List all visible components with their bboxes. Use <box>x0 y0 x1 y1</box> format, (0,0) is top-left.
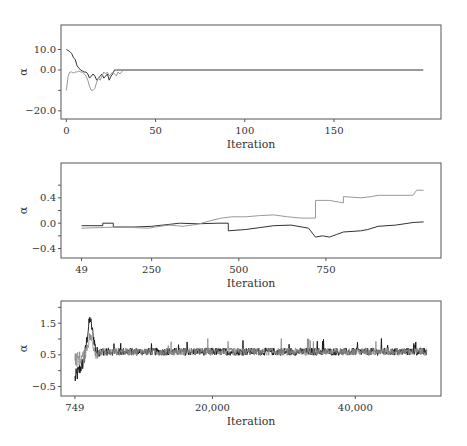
y-tick-label: −20.0 <box>25 105 56 116</box>
x-axis-label: Iteration <box>227 277 276 290</box>
trace-line-2 <box>75 334 427 367</box>
x-tick-label: 40,000 <box>338 402 373 413</box>
x-tick-label: 750 <box>316 264 335 275</box>
x-tick-label: 100 <box>235 125 254 136</box>
y-tick-label: −0.4 <box>32 243 56 254</box>
y-tick-label: 1.5 <box>40 318 56 329</box>
y-tick-label: 0.0 <box>40 218 56 229</box>
y-axis-label: α <box>17 68 30 76</box>
y-tick-label: 0.5 <box>40 349 56 360</box>
x-tick-label: 0 <box>63 125 69 136</box>
trace-line-1 <box>66 50 423 81</box>
plot-frame <box>61 163 441 258</box>
trace-line-2 <box>82 190 424 228</box>
x-tick-label: 20,000 <box>195 402 230 413</box>
y-axis-label: α <box>17 344 30 352</box>
y-tick-label: −0.5 <box>32 381 56 392</box>
x-axis-label: Iteration <box>227 415 276 428</box>
y-axis-label: α <box>17 206 30 214</box>
trace-panel-3: 1.50.5−0.574920,00040,000Iterationα <box>17 301 441 428</box>
x-tick-label: 250 <box>142 264 161 275</box>
trace-plots: 10.00.0−20.0050100150Iterationα0.40.0−0.… <box>0 0 467 446</box>
x-axis-label: Iteration <box>227 138 276 151</box>
y-tick-label: 0.0 <box>40 64 56 75</box>
x-tick-label: 749 <box>65 402 84 413</box>
x-tick-label: 150 <box>324 125 343 136</box>
trace-panel-2: 0.40.0−0.449250500750Iterationα <box>17 163 441 290</box>
trace-panel-1: 10.00.0−20.0050100150Iterationα <box>17 25 441 151</box>
x-tick-label: 50 <box>149 125 162 136</box>
x-tick-label: 500 <box>229 264 248 275</box>
y-tick-label: 0.4 <box>40 192 56 203</box>
trace-line-1 <box>82 222 424 237</box>
x-tick-label: 49 <box>75 264 88 275</box>
y-tick-label: 10.0 <box>34 44 56 55</box>
trace-line-2 <box>66 70 423 90</box>
